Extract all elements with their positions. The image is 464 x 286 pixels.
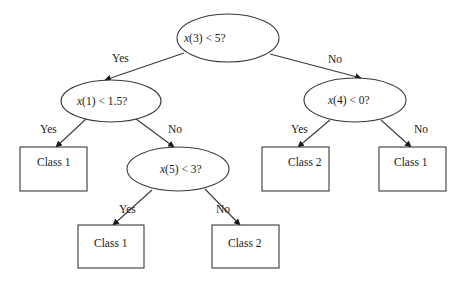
edge-label-yes: Yes: [291, 123, 308, 135]
leaf-node-right-yes-class2: Class 2: [262, 147, 329, 191]
leaf-label: Class 1: [37, 156, 71, 168]
edge-label-no: No: [168, 123, 182, 135]
edge-label-yes: Yes: [40, 123, 57, 135]
edge-label-no: No: [216, 203, 230, 215]
leaf-label: Class 2: [288, 156, 322, 168]
leaf-label: Class 2: [228, 237, 262, 249]
node-label: x(5) < 3?: [159, 163, 202, 176]
decision-node-x1: x(1) < 1.5?: [61, 80, 161, 122]
edge-right-yes: Yes: [291, 120, 330, 147]
edge-root-no: No: [270, 53, 361, 78]
edge-line: [56, 119, 86, 147]
edge-x5-yes: Yes: [113, 190, 152, 225]
edge-left-yes: Yes: [40, 119, 86, 147]
leaf-label: Class 1: [394, 156, 428, 168]
decision-node-x5: x(5) < 3?: [127, 147, 229, 191]
edge-label-no: No: [328, 53, 342, 65]
leaf-label: Class 1: [94, 237, 128, 249]
edge-label-yes: Yes: [112, 52, 129, 64]
edge-label-yes: Yes: [119, 203, 136, 215]
rect-shape: [379, 147, 446, 191]
rect-shape: [20, 147, 87, 191]
decision-tree-diagram: Yes No Yes No Yes No Yes No x(3) < 5? x(…: [0, 0, 464, 286]
rect-shape: [262, 147, 329, 191]
leaf-node-x5-yes-class1: Class 1: [78, 225, 144, 268]
node-label: x(3) < 5?: [183, 32, 226, 45]
edge-label-no: No: [414, 123, 428, 135]
edge-x5-no: No: [205, 189, 240, 225]
leaf-node-right-no-class1: Class 1: [379, 147, 446, 191]
node-label: x(4) < 0?: [327, 94, 370, 107]
edge-line: [381, 120, 411, 147]
node-label: x(1) < 1.5?: [76, 95, 127, 108]
decision-node-x4: x(4) < 0?: [304, 78, 406, 122]
decision-node-root: x(3) < 5?: [177, 14, 279, 62]
edge-right-no: No: [381, 120, 428, 147]
leaf-node-x5-no-class2: Class 2: [212, 225, 279, 268]
edge-root-yes: Yes: [105, 52, 184, 80]
leaf-node-left-class1: Class 1: [20, 147, 87, 191]
edge-line: [270, 54, 361, 78]
edge-left-no: No: [136, 119, 182, 147]
